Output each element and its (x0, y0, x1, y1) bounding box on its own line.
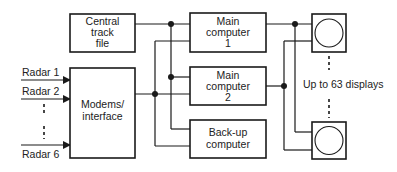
radar-6-label: Radar 6 (22, 148, 60, 160)
junction-dot (152, 91, 158, 97)
backup-computer-box: Back-up computer (190, 120, 266, 158)
svg-text:interface: interface (82, 110, 122, 122)
junction-dot (168, 74, 174, 80)
radar-1-label: Radar 1 (22, 66, 60, 78)
svg-text:file: file (96, 37, 110, 49)
modems-interface-box: Modems/ interface (70, 68, 135, 158)
svg-text:Modems/: Modems/ (81, 98, 124, 110)
display-screen-icon (312, 122, 346, 159)
display-1 (312, 14, 346, 52)
svg-text:2: 2 (225, 91, 231, 103)
display-screen-icon (312, 14, 346, 52)
svg-text:1: 1 (225, 37, 231, 49)
svg-text:Back-up: Back-up (209, 126, 248, 138)
junction-dot (168, 21, 174, 27)
radar-2-label: Radar 2 (22, 85, 60, 97)
svg-text:computer: computer (206, 138, 250, 150)
junction-dot (292, 21, 298, 27)
radar-inputs: Radar 1 Radar 2 Radar 6 (21, 66, 70, 160)
main-computer-2-box: Main computer 2 (190, 67, 266, 105)
junction-dot (281, 83, 287, 89)
displays-label: Up to 63 displays (303, 78, 384, 90)
main-computer-1-box: Main computer 1 (190, 13, 266, 52)
display-63 (312, 122, 346, 159)
radar-system-diagram: Radar 1 Radar 2 Radar 6 Central track fi… (0, 0, 397, 172)
central-track-file-box: Central track file (70, 14, 135, 52)
